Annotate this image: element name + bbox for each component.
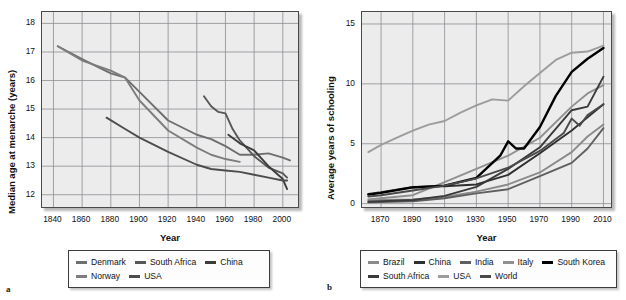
- panel-a-letter: a: [6, 284, 11, 294]
- x-tick-label: 1950: [491, 214, 523, 224]
- legend-swatch-icon: [368, 275, 379, 278]
- legend-item-norway[interactable]: Norway: [76, 272, 120, 281]
- series-line-south-korea: [368, 48, 603, 195]
- panel-a-plot-area: [41, 11, 299, 208]
- legend-item-italy[interactable]: Italy: [503, 258, 534, 267]
- x-tick-label: 1860: [65, 214, 97, 224]
- legend-swatch-icon: [414, 261, 425, 264]
- legend-item-world[interactable]: World: [480, 272, 517, 281]
- x-tick-label: 1980: [237, 214, 269, 224]
- panel-a-x-axis-label: Year: [41, 232, 299, 243]
- legend-row: BrazilChinaIndiaItalySouth Korea: [368, 255, 609, 269]
- x-tick-label: 1960: [208, 214, 240, 224]
- legend-label: India: [475, 258, 494, 267]
- y-tick-label: 17: [15, 46, 35, 56]
- legend-item-south-africa[interactable]: South Africa: [135, 258, 196, 267]
- legend-item-south-korea[interactable]: South Korea: [542, 258, 605, 267]
- legend-swatch-icon: [129, 275, 140, 278]
- x-tick-label: 2000: [266, 214, 298, 224]
- legend-swatch-icon: [438, 275, 449, 278]
- panel-a: Median age at menarche (years) 184018601…: [0, 0, 313, 300]
- series-line-norway: [58, 46, 240, 162]
- panel-a-legend[interactable]: DenmarkSouth AfricaChinaNorwayUSA: [68, 250, 270, 288]
- figure-two-panel-line-charts: Median age at menarche (years) 184018601…: [0, 0, 626, 300]
- legend-swatch-icon: [542, 261, 553, 264]
- y-tick-label: 12: [15, 189, 35, 199]
- legend-swatch-icon: [135, 261, 146, 264]
- y-tick-label: 5: [335, 138, 355, 148]
- legend-item-south-africa[interactable]: South Africa: [368, 272, 429, 281]
- series-line-world: [368, 104, 603, 196]
- x-tick-label: 1900: [122, 214, 154, 224]
- series-line-south-africa: [368, 77, 603, 202]
- x-tick-label: 1940: [180, 214, 212, 224]
- legend-label: China: [429, 258, 451, 267]
- legend-swatch-icon: [460, 261, 471, 264]
- y-tick-label: 15: [335, 18, 355, 28]
- y-tick-label: 18: [15, 17, 35, 27]
- panel-b-x-axis-label: Year: [361, 232, 612, 243]
- x-tick-label: 1840: [36, 214, 68, 224]
- x-tick-label: 1890: [396, 214, 428, 224]
- legend-swatch-icon: [368, 261, 379, 264]
- y-tick-label: 13: [15, 160, 35, 170]
- legend-label: South Korea: [557, 258, 605, 267]
- legend-item-usa[interactable]: USA: [438, 272, 471, 281]
- legend-label: Norway: [91, 272, 120, 281]
- panel-b: Average years of schooling 1870189019101…: [313, 0, 626, 300]
- legend-item-india[interactable]: India: [460, 258, 494, 267]
- x-tick-label: 2010: [586, 214, 618, 224]
- legend-label: World: [495, 272, 517, 281]
- y-tick-label: 10: [335, 78, 355, 88]
- legend-item-denmark[interactable]: Denmark: [76, 258, 126, 267]
- y-tick-label: 16: [15, 75, 35, 85]
- legend-swatch-icon: [503, 261, 514, 264]
- legend-swatch-icon: [76, 275, 87, 278]
- legend-label: USA: [144, 272, 162, 281]
- legend-row: DenmarkSouth AfricaChina: [76, 255, 262, 269]
- series-line-usa: [368, 46, 603, 153]
- x-tick-label: 1880: [94, 214, 126, 224]
- y-tick-label: 15: [15, 103, 35, 113]
- x-tick-label: 1920: [151, 214, 183, 224]
- legend-label: China: [220, 258, 242, 267]
- legend-label: USA: [453, 272, 471, 281]
- panel-b-plot-area: [361, 11, 612, 208]
- panel-b-legend[interactable]: BrazilChinaIndiaItalySouth KoreaSouth Af…: [360, 250, 617, 288]
- legend-row: South AfricaUSAWorld: [368, 269, 609, 283]
- series-line-south-africa: [204, 96, 287, 177]
- legend-swatch-icon: [480, 275, 491, 278]
- panel-b-letter: b: [327, 282, 332, 292]
- x-tick-label: 1990: [555, 214, 587, 224]
- y-tick-label: 0: [335, 198, 355, 208]
- legend-swatch-icon: [76, 261, 87, 264]
- legend-label: Denmark: [91, 258, 126, 267]
- legend-item-china[interactable]: China: [205, 258, 242, 267]
- legend-item-brazil[interactable]: Brazil: [368, 258, 405, 267]
- legend-label: Italy: [518, 258, 534, 267]
- x-tick-label: 1930: [459, 214, 491, 224]
- x-tick-label: 1870: [364, 214, 396, 224]
- legend-row: NorwayUSA: [76, 269, 262, 283]
- y-tick-label: 14: [15, 132, 35, 142]
- x-tick-label: 1970: [523, 214, 555, 224]
- legend-label: Brazil: [383, 258, 405, 267]
- x-tick-label: 1910: [428, 214, 460, 224]
- legend-label: South Africa: [383, 272, 429, 281]
- legend-item-china[interactable]: China: [414, 258, 451, 267]
- legend-swatch-icon: [205, 261, 216, 264]
- legend-item-usa[interactable]: USA: [129, 272, 162, 281]
- legend-label: South Africa: [150, 258, 196, 267]
